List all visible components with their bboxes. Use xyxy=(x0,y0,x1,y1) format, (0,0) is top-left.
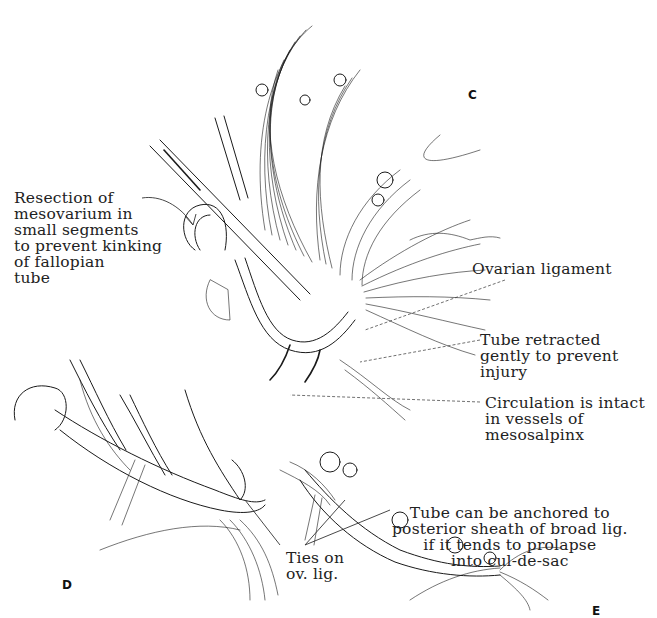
ties-leader-d xyxy=(245,500,280,545)
panel-letter-e: E xyxy=(592,604,600,618)
panel-d-drawing xyxy=(14,360,278,600)
label-ties-on-ov-lig: Ties on ov. lig. xyxy=(286,550,344,582)
ties-leader-e xyxy=(305,510,390,545)
ovarian-ligament-leader xyxy=(365,280,505,330)
panel-letter-c: C xyxy=(468,88,477,102)
panel-c-drawing xyxy=(150,26,500,420)
panel-letter-d: D xyxy=(62,578,72,592)
label-ovarian-ligament: Ovarian ligament xyxy=(472,261,612,277)
label-tube-anchored: Tube can be anchored to posterior sheath… xyxy=(392,505,628,569)
label-tube-retracted: Tube retracted gently to prevent injury xyxy=(480,332,618,380)
label-circulation: Circulation is intact in vessels of meso… xyxy=(485,395,645,443)
label-resection: Resection of mesovarium in small segment… xyxy=(14,190,162,286)
circulation-leader xyxy=(290,395,480,402)
